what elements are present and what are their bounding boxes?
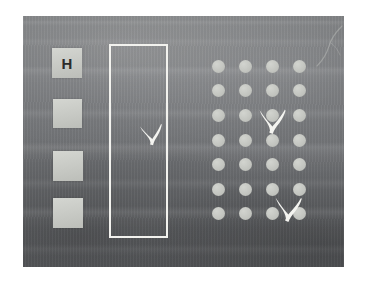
grid-dot[interactable] (266, 60, 279, 73)
chalk-square-4[interactable] (53, 198, 83, 228)
grid-dot[interactable] (293, 158, 306, 171)
chalk-square-2-glyph (53, 99, 82, 128)
grid-dot[interactable] (266, 207, 279, 220)
grid-dot[interactable] (266, 183, 279, 196)
chalk-square-4-glyph (53, 198, 83, 228)
grid-dot[interactable] (266, 158, 279, 171)
grid-dot[interactable] (239, 207, 252, 220)
grid-dot[interactable] (239, 60, 252, 73)
white-outlined-rectangle[interactable] (109, 44, 168, 238)
dot-grid (209, 58, 337, 238)
chalkboard: H (23, 16, 344, 267)
grid-dot[interactable] (293, 134, 306, 147)
grid-dot[interactable] (212, 183, 225, 196)
grid-dot[interactable] (293, 183, 306, 196)
grid-dot[interactable] (239, 84, 252, 97)
grid-dot[interactable] (212, 84, 225, 97)
grid-dot[interactable] (293, 207, 306, 220)
grid-dot[interactable] (239, 134, 252, 147)
grid-dot[interactable] (239, 158, 252, 171)
grid-dot[interactable] (293, 109, 306, 122)
chalk-square-2[interactable] (53, 99, 82, 128)
grid-dot[interactable] (293, 60, 306, 73)
chalk-square-1[interactable]: H (52, 48, 82, 78)
chalk-square-3-glyph (53, 151, 83, 181)
grid-dot[interactable] (212, 60, 225, 73)
grid-dot[interactable] (293, 84, 306, 97)
grid-dot[interactable] (212, 158, 225, 171)
grid-dot[interactable] (266, 109, 279, 122)
grid-dot[interactable] (212, 207, 225, 220)
letter-h-glyph: H (52, 48, 82, 78)
screenshot-canvas: H (0, 0, 365, 283)
grid-dot[interactable] (239, 183, 252, 196)
chalk-square-3[interactable] (53, 151, 83, 181)
grid-dot[interactable] (266, 84, 279, 97)
grid-dot[interactable] (266, 134, 279, 147)
grid-dot[interactable] (212, 134, 225, 147)
grid-dot[interactable] (239, 109, 252, 122)
grid-dot[interactable] (212, 109, 225, 122)
